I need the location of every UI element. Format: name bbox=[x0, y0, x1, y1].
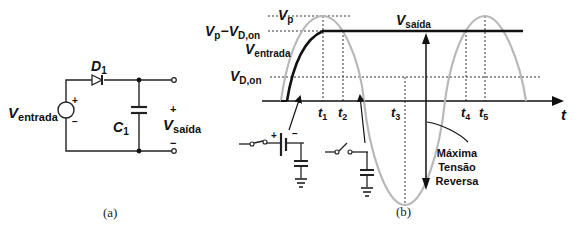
annotation-line3: Reversa bbox=[436, 175, 480, 187]
open-switch-icon bbox=[339, 143, 347, 151]
arrow-up-icon bbox=[422, 33, 430, 44]
vin-label: Ventrada bbox=[8, 104, 59, 123]
capacitor-icon bbox=[131, 80, 147, 151]
circuit-a: Ventrada + − D1 C1 + Vsaída − (a) bbox=[8, 58, 202, 220]
battery-plus: + bbox=[271, 130, 277, 141]
ground-icon bbox=[361, 188, 373, 196]
tick-t4: t4 bbox=[461, 105, 470, 122]
caption-a: (a) bbox=[103, 205, 117, 220]
reference-lines bbox=[268, 16, 540, 205]
diode-label: D1 bbox=[91, 58, 107, 76]
annotation-leader bbox=[427, 122, 468, 142]
caption-b: (b) bbox=[396, 204, 411, 219]
annotation-line1: Máxima bbox=[437, 147, 478, 159]
annotation-line2: Tensão bbox=[438, 161, 476, 173]
peak-detector-figure: Ventrada + − D1 C1 + Vsaída − (a) bbox=[0, 0, 581, 234]
node-dot bbox=[137, 149, 142, 154]
vout-label-a: Vsaída bbox=[163, 116, 202, 135]
tick-t2: t2 bbox=[338, 105, 347, 122]
node-dot bbox=[137, 78, 142, 83]
source-plus: + bbox=[72, 95, 78, 106]
diode-icon bbox=[92, 75, 102, 85]
vin-label-b: Ventrada bbox=[245, 41, 291, 59]
vout-label-b: Vsaída bbox=[396, 12, 431, 30]
inset-diode-off bbox=[325, 143, 374, 196]
waveform-b: Máxima Tensão Reversa Vp Vp−VD,on Ventra… bbox=[205, 7, 567, 219]
output-plus: + bbox=[170, 103, 176, 115]
output-terminal bbox=[172, 149, 177, 154]
battery-icon bbox=[281, 133, 286, 156]
capacitor-label: C1 bbox=[113, 119, 129, 137]
tick-t1: t1 bbox=[318, 105, 327, 122]
output-terminal bbox=[172, 78, 177, 83]
output-minus: − bbox=[170, 137, 176, 149]
source-minus: − bbox=[72, 116, 78, 127]
inset-diode-on: + − bbox=[239, 128, 308, 187]
ground-icon bbox=[295, 179, 307, 187]
pointer-arrow-charging bbox=[289, 97, 300, 130]
vdon-label: VD,on bbox=[230, 68, 262, 86]
tick-t5: t5 bbox=[479, 105, 488, 122]
vp-minus-vdon-label: Vp−VD,on bbox=[205, 23, 260, 41]
tick-t3: t3 bbox=[391, 105, 400, 122]
battery-minus: − bbox=[292, 128, 298, 139]
wire-top-left bbox=[66, 80, 92, 103]
vp-label: Vp bbox=[278, 7, 293, 25]
time-axis-label: t bbox=[561, 106, 567, 123]
